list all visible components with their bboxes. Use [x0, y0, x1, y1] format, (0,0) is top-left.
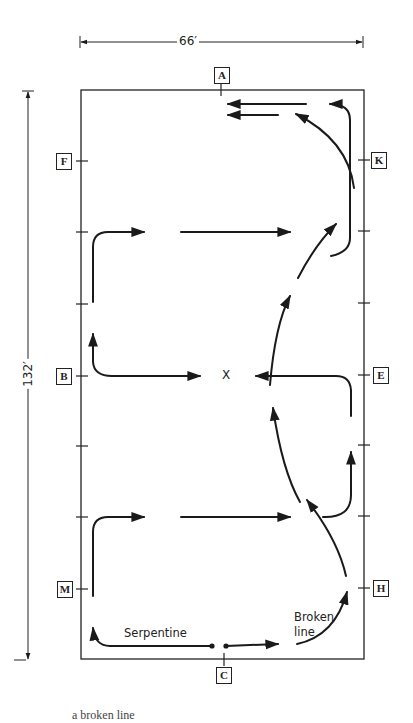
marker-f: F: [56, 153, 72, 170]
width-dimension-line: [80, 36, 363, 48]
marker-b: B: [56, 368, 72, 385]
length-label: 132′: [21, 359, 35, 389]
marker-a: A: [214, 67, 230, 84]
marker-h: H: [373, 580, 389, 597]
marker-m: M: [57, 581, 73, 598]
broken-line-label-1: Broken: [294, 610, 334, 624]
marker-k: K: [371, 152, 387, 169]
broken-line-label-2: line: [294, 625, 315, 639]
serpentine-label: Serpentine: [124, 626, 187, 640]
marker-e: E: [373, 367, 389, 384]
marker-c: C: [216, 667, 232, 684]
center-dots: [209, 643, 228, 648]
figure-caption: a broken line: [72, 708, 135, 723]
center-x-label: X: [222, 368, 230, 382]
width-label: 66′: [177, 34, 199, 48]
